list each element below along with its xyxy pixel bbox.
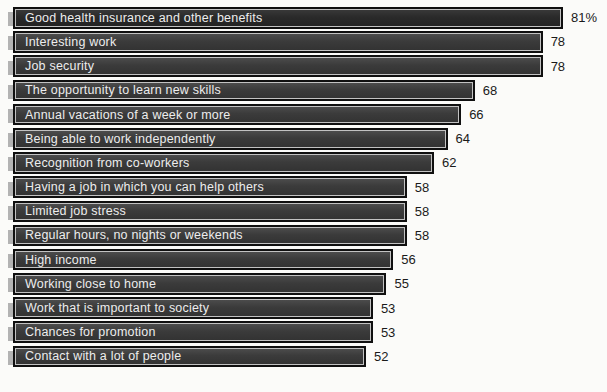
- bar-category-label: Annual vacations of a week or more: [15, 108, 231, 122]
- bar-value-label: 78: [551, 59, 565, 74]
- bar-category-label: Good health insurance and other benefits: [15, 11, 262, 25]
- bar-category-label: Job security: [15, 59, 94, 73]
- bar: High income: [13, 249, 393, 271]
- bar: Being able to work independently: [13, 128, 448, 150]
- bar-row: Annual vacations of a week or more 66: [8, 104, 597, 126]
- bar: Interesting work: [13, 31, 543, 53]
- bar-row: Good health insurance and other benefits…: [8, 7, 597, 29]
- bar-category-label: Working close to home: [15, 277, 156, 291]
- bar-chart: Good health insurance and other benefits…: [8, 7, 597, 370]
- bar: The opportunity to learn new skills: [13, 80, 475, 102]
- bar-row: High income 56: [8, 249, 597, 271]
- bar-value-label: 78: [551, 34, 565, 49]
- bar-row: Being able to work independently 64: [8, 128, 597, 150]
- bar-row: Working close to home 55: [8, 273, 597, 295]
- bar-row: Recognition from co-workers 62: [8, 152, 597, 174]
- bar-row: Contact with a lot of people 52: [8, 346, 597, 368]
- bar: Contact with a lot of people: [13, 346, 366, 368]
- bar: Chances for promotion: [13, 321, 373, 343]
- bar-category-label: Work that is important to society: [15, 301, 209, 315]
- bar-value-label: 62: [442, 155, 456, 170]
- bar-category-label: Interesting work: [15, 35, 116, 49]
- bar-row: Regular hours, no nights or weekends 58: [8, 225, 597, 247]
- bar: Limited job stress: [13, 201, 407, 223]
- bar-value-label: 58: [415, 204, 429, 219]
- bar: Working close to home: [13, 273, 386, 295]
- bar-value-label: 58: [415, 180, 429, 195]
- bar-category-label: Recognition from co-workers: [15, 156, 189, 170]
- bar: Good health insurance and other benefits: [13, 7, 563, 29]
- bar-category-label: High income: [15, 253, 97, 267]
- bar: Having a job in which you can help other…: [13, 176, 407, 198]
- bar-row: Chances for promotion 53: [8, 321, 597, 343]
- bar-value-label: 68: [483, 83, 497, 98]
- bar-value-label: 58: [415, 228, 429, 243]
- bar: Recognition from co-workers: [13, 152, 434, 174]
- bar: Job security: [13, 55, 543, 77]
- bar-category-label: Chances for promotion: [15, 325, 156, 339]
- bar-row: The opportunity to learn new skills 68: [8, 80, 597, 102]
- bar: Annual vacations of a week or more: [13, 104, 461, 126]
- bar: Regular hours, no nights or weekends: [13, 225, 407, 247]
- bar-category-label: The opportunity to learn new skills: [15, 83, 221, 97]
- bar-category-label: Regular hours, no nights or weekends: [15, 228, 243, 242]
- bar-value-label: 56: [401, 252, 415, 267]
- bar-category-label: Limited job stress: [15, 204, 126, 218]
- bar-category-label: Contact with a lot of people: [15, 349, 181, 363]
- bar: Work that is important to society: [13, 297, 373, 319]
- bar-value-label: 81%: [571, 10, 597, 25]
- bar-row: Having a job in which you can help other…: [8, 176, 597, 198]
- bar-row: Limited job stress 58: [8, 201, 597, 223]
- bar-value-label: 64: [456, 131, 470, 146]
- bar-value-label: 53: [381, 325, 395, 340]
- bar-value-label: 53: [381, 301, 395, 316]
- bar-value-label: 55: [394, 276, 408, 291]
- bar-value-label: 52: [374, 349, 388, 364]
- bar-row: Interesting work 78: [8, 31, 597, 53]
- bar-value-label: 66: [469, 107, 483, 122]
- bar-category-label: Being able to work independently: [15, 132, 216, 146]
- bar-category-label: Having a job in which you can help other…: [15, 180, 264, 194]
- bar-row: Job security 78: [8, 55, 597, 77]
- bar-row: Work that is important to society 53: [8, 297, 597, 319]
